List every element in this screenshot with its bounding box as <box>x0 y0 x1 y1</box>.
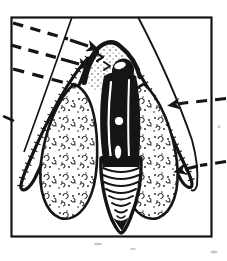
central-axis <box>100 72 140 161</box>
leader-4-arrow <box>179 103 184 104</box>
axis-white-slit <box>115 146 121 159</box>
axis-white-streak-right <box>128 80 129 158</box>
cone-dark-collar <box>101 156 141 167</box>
axis-white-spot <box>115 117 123 125</box>
figure-canvas <box>0 0 227 261</box>
axis-dark-mass <box>100 72 140 161</box>
